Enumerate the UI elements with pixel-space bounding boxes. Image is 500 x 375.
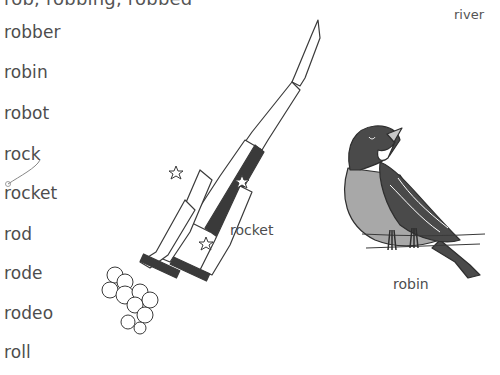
robin-illustration xyxy=(0,0,500,375)
robin-caption: robin xyxy=(393,276,429,292)
